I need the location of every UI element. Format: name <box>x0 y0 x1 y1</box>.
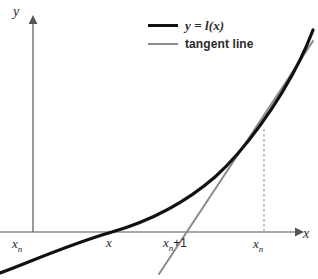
tick-label-xn-end: xn <box>253 236 263 254</box>
y-axis-arrowhead <box>29 15 38 24</box>
tick-base: x <box>106 235 112 250</box>
x-axis-label: x <box>303 226 309 242</box>
legend-label-function: y = l(x) <box>185 18 224 34</box>
tick-subscript: n <box>259 244 264 254</box>
tick-label-xn-start: xn <box>12 236 22 254</box>
function-curve-path <box>0 30 313 273</box>
legend-entry-function: y = l(x) <box>148 18 254 33</box>
legend: y = l(x) tangent line <box>148 18 254 51</box>
legend-swatch-function-icon <box>148 24 178 27</box>
legend-entry-tangent: tangent line <box>148 36 254 51</box>
y-axis-label: y <box>13 4 19 20</box>
legend-label-tangent: tangent line <box>185 37 254 51</box>
tick-subscript: n <box>18 244 23 254</box>
legend-swatch-tangent-icon <box>148 43 178 45</box>
tick-label-x: x <box>106 235 112 251</box>
tick-label-xn-plus-1: xn+1 <box>163 235 187 253</box>
tick-suffix: +1 <box>173 236 187 250</box>
newton-method-figure: y x xn x xn+1 xn y = l(x) tangent line <box>0 0 318 279</box>
